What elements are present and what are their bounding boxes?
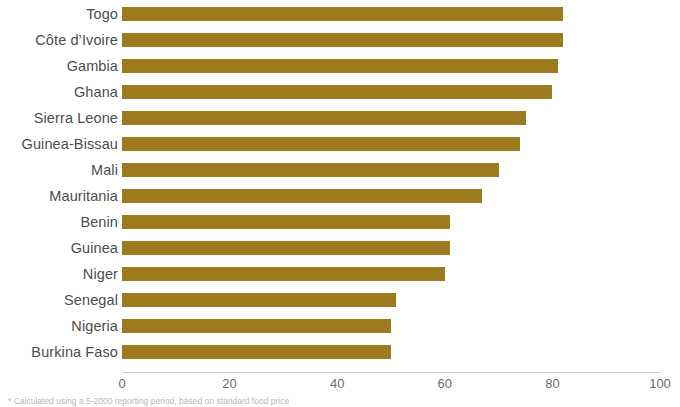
bar-row: Senegal <box>0 287 680 313</box>
bar <box>122 241 450 255</box>
bar-category-label: Gambia <box>67 53 118 79</box>
bar-fill <box>122 241 450 255</box>
bar-category-label: Guinea <box>71 235 118 261</box>
bar-category-label: Togo <box>86 1 118 27</box>
x-tick-label: 40 <box>330 376 344 391</box>
x-axis-line <box>122 372 660 373</box>
bar-fill <box>122 319 391 333</box>
bar <box>122 85 552 99</box>
bar-fill <box>122 7 563 21</box>
bar <box>122 267 445 281</box>
x-tick-label: 20 <box>222 376 236 391</box>
bar <box>122 33 563 47</box>
bar-category-label: Burkina Faso <box>31 339 118 365</box>
bar <box>122 59 558 73</box>
bar-fill <box>122 345 391 359</box>
bar-row: Burkina Faso <box>0 339 680 365</box>
bar-fill <box>122 33 563 47</box>
bar <box>122 215 450 229</box>
bar-fill <box>122 215 450 229</box>
bar <box>122 137 520 151</box>
bar-row: Mauritania <box>0 183 680 209</box>
bar-row: Mali <box>0 157 680 183</box>
bar-category-label: Ghana <box>74 79 118 105</box>
bar-fill <box>122 111 526 125</box>
bar-row: Nigeria <box>0 313 680 339</box>
bar-category-label: Guinea-Bissau <box>22 131 118 157</box>
bar <box>122 345 391 359</box>
bar-category-label: Benin <box>80 209 118 235</box>
bar-fill <box>122 137 520 151</box>
bar-category-label: Mali <box>91 157 118 183</box>
bar-fill <box>122 85 552 99</box>
bar-row: Togo <box>0 1 680 27</box>
bar <box>122 7 563 21</box>
bar-row: Benin <box>0 209 680 235</box>
bar-row: Ghana <box>0 79 680 105</box>
x-axis: 020406080100 <box>0 372 680 394</box>
bar-fill <box>122 293 396 307</box>
x-tick-label: 80 <box>545 376 559 391</box>
x-tick-label: 60 <box>438 376 452 391</box>
chart-footnote: * Calculated using a 5-2000 reporting pe… <box>8 396 672 407</box>
bar-chart: TogoCôte d’IvoireGambiaGhanaSierra Leone… <box>0 0 680 407</box>
x-tick-label: 0 <box>118 376 125 391</box>
bar-row: Niger <box>0 261 680 287</box>
bar-fill <box>122 163 499 177</box>
bar-row: Guinea-Bissau <box>0 131 680 157</box>
plot-area: TogoCôte d’IvoireGambiaGhanaSierra Leone… <box>0 0 680 372</box>
bar-category-label: Senegal <box>64 287 118 313</box>
bar-row: Gambia <box>0 53 680 79</box>
bar-fill <box>122 267 445 281</box>
bar <box>122 293 396 307</box>
bar-category-label: Mauritania <box>49 183 118 209</box>
bar-category-label: Nigeria <box>71 313 118 339</box>
bar <box>122 319 391 333</box>
bar <box>122 189 482 203</box>
bar-row: Côte d’Ivoire <box>0 27 680 53</box>
bar-category-label: Côte d’Ivoire <box>35 27 118 53</box>
bar-fill <box>122 59 558 73</box>
bar-row: Guinea <box>0 235 680 261</box>
bar-category-label: Sierra Leone <box>34 105 118 131</box>
bar-fill <box>122 189 482 203</box>
bar <box>122 163 499 177</box>
bar <box>122 111 526 125</box>
bar-row: Sierra Leone <box>0 105 680 131</box>
x-tick-label: 100 <box>649 376 671 391</box>
bar-category-label: Niger <box>83 261 118 287</box>
